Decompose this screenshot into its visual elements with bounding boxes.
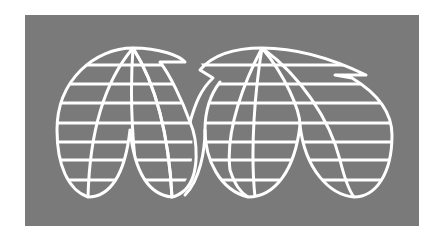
globe-m-logo-icon: [0, 0, 442, 245]
right-latitude-lines: [190, 65, 400, 180]
right-globe: [190, 48, 400, 197]
left-latitude-lines: [40, 65, 200, 180]
